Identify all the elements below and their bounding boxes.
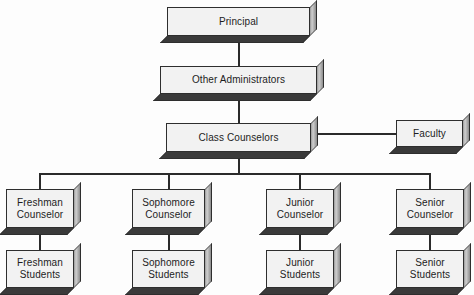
node-principal-extrusion-side — [310, 0, 317, 36]
node-freshman-counselor-face: Freshman Counselor — [6, 189, 74, 228]
connector-counselors-to-faculty — [318, 133, 396, 135]
node-freshman-students-face: Freshman Students — [6, 250, 74, 288]
node-sophomore-counselor[interactable]: Sophomore Counselor — [132, 189, 205, 228]
node-junior-counselor-extrusion-bottom — [259, 228, 334, 235]
node-junior-counselor-label: Junior Counselor — [273, 197, 327, 221]
node-other-administrators-face: Other Administrators — [160, 66, 317, 94]
node-freshman-students-label: Freshman Students — [13, 257, 67, 281]
connector-bus-horizontal — [39, 173, 430, 175]
node-junior-students[interactable]: Junior Students — [266, 250, 334, 288]
node-freshman-students-extrusion-bottom — [0, 288, 74, 295]
node-sophomore-students-extrusion-side — [205, 243, 212, 288]
node-senior-counselor-extrusion-bottom — [389, 228, 464, 235]
node-junior-students-label: Junior Students — [276, 257, 324, 281]
node-sophomore-counselor-extrusion-side — [205, 182, 212, 228]
node-sophomore-counselor-extrusion-bottom — [125, 228, 205, 235]
node-senior-students-face: Senior Students — [396, 250, 464, 288]
node-sophomore-students-label: Sophomore Students — [138, 257, 199, 281]
node-junior-students-extrusion-bottom — [259, 288, 334, 295]
node-principal-extrusion-bottom — [160, 36, 310, 43]
node-senior-counselor-extrusion-side — [464, 182, 471, 228]
node-junior-counselor-face: Junior Counselor — [266, 189, 334, 228]
node-senior-students[interactable]: Senior Students — [396, 250, 464, 288]
node-senior-counselor-label: Senior Counselor — [403, 197, 457, 221]
node-other-administrators-extrusion-side — [317, 59, 324, 94]
node-sophomore-counselor-label: Sophomore Counselor — [138, 197, 199, 221]
node-class-counselors-extrusion-bottom — [159, 152, 311, 159]
node-faculty-label: Faculty — [409, 128, 450, 140]
node-principal-label: Principal — [215, 16, 262, 28]
node-principal-face: Principal — [167, 7, 310, 36]
node-junior-students-extrusion-side — [334, 243, 341, 288]
node-freshman-counselor-extrusion-side — [74, 182, 81, 228]
node-sophomore-students[interactable]: Sophomore Students — [132, 250, 205, 288]
node-other-administrators[interactable]: Other Administrators — [160, 66, 317, 94]
node-sophomore-students-extrusion-bottom — [125, 288, 205, 295]
connector-bus-to-junior-counselor — [299, 173, 301, 189]
node-senior-counselor[interactable]: Senior Counselor — [396, 189, 464, 228]
node-faculty[interactable]: Faculty — [396, 120, 463, 147]
node-freshman-students-extrusion-side — [74, 243, 81, 288]
node-other-administrators-extrusion-bottom — [153, 94, 317, 101]
node-freshman-counselor-label: Freshman Counselor — [13, 197, 67, 221]
connector-bus-to-sophomore-counselor — [168, 173, 170, 189]
node-faculty-extrusion-bottom — [389, 147, 463, 154]
node-junior-counselor-extrusion-side — [334, 182, 341, 228]
node-principal[interactable]: Principal — [167, 7, 310, 36]
node-freshman-students[interactable]: Freshman Students — [6, 250, 74, 288]
node-faculty-face: Faculty — [396, 120, 463, 147]
node-class-counselors-extrusion-side — [311, 116, 318, 152]
connector-bus-to-senior-counselor — [429, 173, 431, 189]
node-class-counselors[interactable]: Class Counselors — [166, 123, 311, 152]
node-sophomore-counselor-face: Sophomore Counselor — [132, 189, 205, 228]
node-senior-students-extrusion-bottom — [389, 288, 464, 295]
node-junior-students-face: Junior Students — [266, 250, 334, 288]
node-faculty-extrusion-side — [463, 113, 470, 147]
node-junior-counselor[interactable]: Junior Counselor — [266, 189, 334, 228]
node-senior-students-extrusion-side — [464, 243, 471, 288]
node-freshman-counselor[interactable]: Freshman Counselor — [6, 189, 74, 228]
node-class-counselors-label: Class Counselors — [195, 132, 283, 144]
node-senior-counselor-face: Senior Counselor — [396, 189, 464, 228]
node-other-administrators-label: Other Administrators — [188, 74, 289, 86]
node-class-counselors-face: Class Counselors — [166, 123, 311, 152]
node-freshman-counselor-extrusion-bottom — [0, 228, 74, 235]
node-sophomore-students-face: Sophomore Students — [132, 250, 205, 288]
node-senior-students-label: Senior Students — [406, 257, 454, 281]
connector-bus-to-freshman-counselor — [39, 173, 41, 189]
